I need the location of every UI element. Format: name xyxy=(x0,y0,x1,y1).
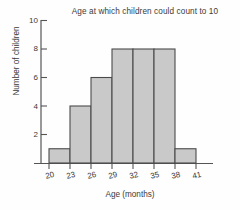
bar-20-23 xyxy=(49,149,70,163)
bar-32-35 xyxy=(133,49,154,163)
y-tick-label: 8 xyxy=(22,45,38,53)
bar-29-32 xyxy=(112,49,133,163)
plot-area: 10 8 6 4 2 20 23 26 29 32 35 38 41 xyxy=(0,0,240,210)
histogram-bars xyxy=(49,49,196,163)
bar-38-41 xyxy=(175,149,196,163)
y-tick-label: 2 xyxy=(22,131,38,139)
bar-26-29 xyxy=(91,78,112,164)
bar-23-26 xyxy=(70,106,91,163)
bar-35-38 xyxy=(154,49,175,163)
y-tick-label: 4 xyxy=(22,103,38,111)
y-tick-label: 6 xyxy=(22,74,38,82)
y-axis-ticks xyxy=(41,21,47,135)
y-tick-label: 10 xyxy=(22,17,38,25)
histogram-figure: Age at which children could count to 10 … xyxy=(0,0,240,210)
